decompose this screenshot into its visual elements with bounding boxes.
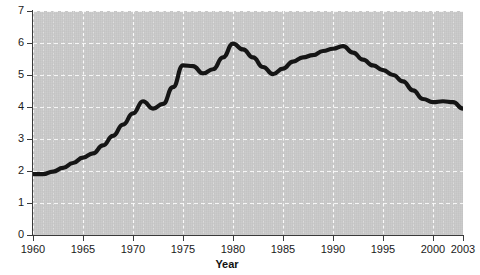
x-axis-line: [32, 235, 464, 236]
x-tick-mark: [133, 236, 134, 241]
x-axis-title: Year: [0, 258, 474, 270]
x-tick-label: 1985: [263, 243, 303, 255]
y-tick-mark: [27, 107, 33, 108]
x-tick-mark: [383, 236, 384, 241]
cut-off-title: [30, 0, 360, 3]
x-tick-label: 1995: [363, 243, 403, 255]
y-tick-label: 1: [6, 197, 24, 208]
x-tick-mark: [183, 236, 184, 241]
y-tick-label: 3: [6, 133, 24, 144]
y-tick-label: 7: [6, 5, 24, 16]
y-tick-mark: [27, 75, 33, 76]
y-tick-mark: [27, 139, 33, 140]
data-series-line: [33, 11, 463, 235]
x-tick-label: 2003: [443, 243, 480, 255]
x-tick-label: 1965: [63, 243, 103, 255]
y-tick-label: 6: [6, 37, 24, 48]
x-tick-mark: [33, 236, 34, 241]
x-tick-label: 1980: [213, 243, 253, 255]
y-tick-label: 2: [6, 165, 24, 176]
plot-area: [33, 11, 463, 235]
y-tick-mark: [27, 171, 33, 172]
y-tick-label: 5: [6, 69, 24, 80]
y-tick-mark: [27, 11, 33, 12]
x-tick-mark: [233, 236, 234, 241]
x-tick-mark: [83, 236, 84, 241]
y-tick-label: 0: [6, 229, 24, 240]
y-tick-mark: [27, 43, 33, 44]
x-tick-mark: [283, 236, 284, 241]
x-tick-mark: [333, 236, 334, 241]
series-path: [33, 44, 463, 175]
x-axis-title-label: Year: [215, 258, 238, 270]
x-tick-label: 1975: [163, 243, 203, 255]
x-tick-label: 1990: [313, 243, 353, 255]
x-tick-label: 1960: [13, 243, 53, 255]
x-tick-mark: [463, 236, 464, 241]
y-tick-mark: [27, 203, 33, 204]
y-tick-label: 4: [6, 101, 24, 112]
x-tick-mark: [433, 236, 434, 241]
x-tick-label: 1970: [113, 243, 153, 255]
